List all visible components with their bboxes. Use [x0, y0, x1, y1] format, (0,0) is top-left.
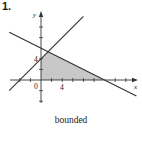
y-axis-label: y — [32, 11, 37, 19]
x-tick-label-4: 4 — [60, 83, 64, 92]
y-tick-label-4: 4 — [34, 55, 38, 64]
x-axis-label: x — [133, 83, 138, 91]
region-caption: bounded — [0, 115, 142, 125]
x-axis-arrow-icon — [132, 78, 138, 82]
line-x-plus-2y-equals-12 — [9, 32, 136, 96]
origin-label: 0 — [34, 82, 38, 91]
y-axis-arrow-icon — [39, 11, 43, 17]
